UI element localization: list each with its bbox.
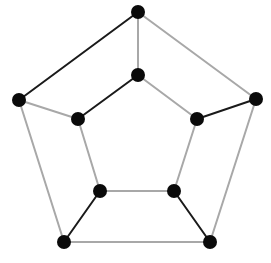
- node-outer_top: [131, 5, 145, 19]
- node-outer_bottom_right: [203, 235, 217, 249]
- graph-diagram: [0, 0, 271, 263]
- edge-outer_top-outer_left: [19, 12, 138, 100]
- graph-edges: [19, 12, 256, 242]
- edge-outer_right-outer_bottom_right: [210, 99, 256, 242]
- node-inner_right: [190, 112, 204, 126]
- edge-outer_left-outer_bottom_left: [19, 100, 64, 242]
- edge-outer_left-inner_left: [19, 100, 78, 119]
- edge-inner_left-inner_bottom_left: [78, 119, 100, 191]
- edge-inner_bottom_right-outer_bottom_right: [174, 191, 210, 242]
- edge-outer_right-inner_right: [197, 99, 256, 119]
- edge-inner_bottom_left-outer_bottom_left: [64, 191, 100, 242]
- node-inner_top: [131, 68, 145, 82]
- edge-inner_top-inner_left: [78, 75, 138, 119]
- node-outer_left: [12, 93, 26, 107]
- node-inner_bottom_left: [93, 184, 107, 198]
- edge-inner_top-inner_right: [138, 75, 197, 119]
- node-outer_right: [249, 92, 263, 106]
- node-inner_bottom_right: [167, 184, 181, 198]
- edge-outer_top-outer_right: [138, 12, 256, 99]
- node-inner_left: [71, 112, 85, 126]
- edge-inner_right-inner_bottom_right: [174, 119, 197, 191]
- node-outer_bottom_left: [57, 235, 71, 249]
